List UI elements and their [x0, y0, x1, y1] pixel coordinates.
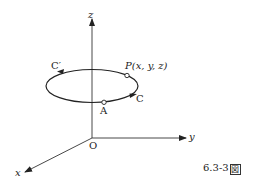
point-a — [102, 100, 106, 104]
point-p — [125, 73, 129, 77]
point-p-label: P(x, y, z) — [125, 61, 167, 71]
coordinate-diagram — [0, 0, 253, 185]
caption-number: 6.3-3 — [203, 162, 229, 173]
caption-suffix: 図 — [230, 164, 241, 175]
figure-canvas: z y x O C′ C A P(x, y, z) 6.3-3図 — [0, 0, 253, 185]
y-axis-label: y — [189, 132, 195, 142]
point-a-label: A — [100, 106, 107, 116]
x-axis — [25, 138, 92, 172]
figure-caption: 6.3-3図 — [203, 162, 241, 175]
curve-c-prime-label: C′ — [51, 61, 61, 71]
curve-c-label: C — [136, 94, 144, 104]
origin-label: O — [89, 141, 97, 151]
x-axis-label: x — [15, 168, 21, 178]
z-axis-label: z — [88, 10, 93, 20]
